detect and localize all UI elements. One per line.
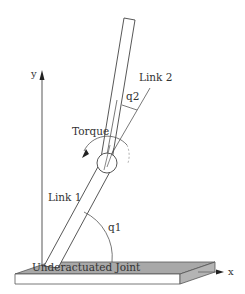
x-axis-label: x bbox=[228, 266, 234, 277]
y-axis-label: y bbox=[30, 68, 37, 79]
q2-angle-arc bbox=[122, 105, 137, 110]
q1-angle-arc bbox=[84, 212, 112, 262]
underactuated-joint-label: Underactuated Joint bbox=[32, 261, 141, 273]
q2-label: q2 bbox=[126, 90, 139, 102]
robot-diagram: y x Link 2 q2 Torque Link 1 q1 Underactu… bbox=[0, 0, 245, 294]
torque-label: Torque bbox=[72, 125, 109, 137]
y-axis bbox=[40, 70, 45, 268]
q1-label: q1 bbox=[108, 221, 121, 233]
x-axis-arrow-icon bbox=[216, 270, 224, 275]
torque-arrow-icon bbox=[82, 149, 89, 158]
y-axis-arrow-icon bbox=[40, 70, 45, 80]
link-1-bar bbox=[44, 163, 112, 268]
link-1-label: Link 1 bbox=[48, 191, 81, 203]
link-2-label: Link 2 bbox=[139, 71, 172, 83]
link-2-bar bbox=[101, 18, 135, 160]
actuated-joint bbox=[97, 153, 117, 173]
platform-front-face bbox=[15, 274, 180, 284]
torque-arc-tail bbox=[127, 145, 129, 163]
